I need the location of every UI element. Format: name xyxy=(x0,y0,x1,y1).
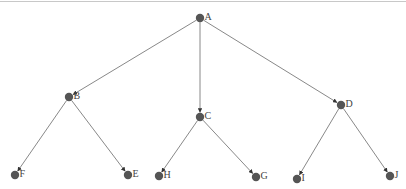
node-dot xyxy=(386,172,394,180)
nodes-group: ABCDFEHGIJ xyxy=(11,11,399,183)
edge-c-h xyxy=(162,120,198,172)
node-dot xyxy=(196,14,204,22)
node-d: D xyxy=(337,98,353,109)
edge-a-b xyxy=(73,20,196,94)
node-label: E xyxy=(133,168,139,179)
node-c: C xyxy=(196,110,212,121)
node-e: E xyxy=(124,168,139,179)
node-dot xyxy=(196,113,204,121)
node-label: F xyxy=(20,168,26,179)
edge-a-d xyxy=(204,20,337,102)
node-label: G xyxy=(261,170,268,181)
edge-c-g xyxy=(203,120,253,173)
tree-diagram: ABCDFEHGIJ xyxy=(0,0,406,189)
node-label: H xyxy=(164,169,171,180)
edge-b-f xyxy=(18,100,67,171)
node-dot xyxy=(11,171,19,179)
node-dot xyxy=(65,93,73,101)
node-i: I xyxy=(293,172,305,183)
node-j: J xyxy=(386,169,399,180)
node-label: B xyxy=(74,90,81,101)
node-dot xyxy=(293,175,301,183)
node-dot xyxy=(124,171,132,179)
node-label: A xyxy=(205,11,213,22)
node-b: B xyxy=(65,90,81,101)
edge-d-i xyxy=(299,109,338,175)
node-dot xyxy=(337,101,345,109)
edge-d-j xyxy=(343,108,387,172)
edge-b-e xyxy=(72,100,126,171)
node-label: C xyxy=(205,110,212,121)
node-label: D xyxy=(346,98,353,109)
node-label: J xyxy=(395,169,399,180)
node-dot xyxy=(252,173,260,181)
node-h: H xyxy=(155,169,171,180)
node-label: I xyxy=(302,172,305,183)
node-dot xyxy=(155,172,163,180)
node-g: G xyxy=(252,170,268,181)
node-a: A xyxy=(196,11,213,22)
